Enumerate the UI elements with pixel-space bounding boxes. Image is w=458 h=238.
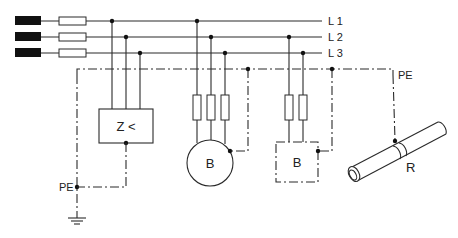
junction-dot	[330, 67, 334, 71]
motor-fuse-l2	[207, 95, 215, 120]
junction-dot	[246, 67, 250, 71]
equipment-pe-terminal	[316, 149, 320, 153]
label-pe-top: PE	[398, 69, 413, 81]
junction-dot	[223, 51, 227, 55]
motor-label: B	[206, 156, 215, 171]
junction-dot	[209, 35, 213, 39]
equipment-pe-link	[318, 69, 332, 151]
equipment-fuse-l2	[285, 95, 293, 120]
source-l2	[15, 32, 41, 41]
equipment-fuse-l3	[299, 95, 307, 120]
fuse-l1	[59, 17, 86, 25]
electrical-diagram: L 1 L 2 L 3 PE PE Z < B B	[0, 0, 458, 238]
junction-dot	[124, 35, 128, 39]
impedance-monitor-pe-link	[77, 143, 126, 187]
label-l3: L 3	[328, 47, 343, 59]
pipe-icon	[346, 122, 446, 183]
pipe-label: R	[406, 160, 415, 175]
equipment-label: B	[293, 155, 302, 170]
impedance-monitor-label: Z <	[116, 119, 135, 134]
motor-pe-link	[230, 69, 248, 151]
junction-dot	[110, 19, 114, 23]
junction-dot	[138, 51, 142, 55]
label-pe-left: PE	[59, 181, 74, 193]
fuse-l3	[59, 49, 86, 57]
pipe-pe-terminal	[393, 139, 397, 143]
motor-fuse-l3	[221, 95, 229, 120]
label-l1: L 1	[328, 15, 343, 27]
pipe-pe-link	[393, 75, 395, 140]
junction-dot	[287, 35, 291, 39]
fuse-l2	[59, 33, 86, 41]
motor-fuse-l1	[193, 95, 201, 120]
label-l2: L 2	[328, 31, 343, 43]
source-l3	[15, 48, 41, 57]
pe-bus	[77, 69, 393, 75]
source-l1	[15, 16, 41, 25]
junction-dot	[301, 51, 305, 55]
junction-dot	[195, 19, 199, 23]
ground-icon	[68, 218, 86, 224]
